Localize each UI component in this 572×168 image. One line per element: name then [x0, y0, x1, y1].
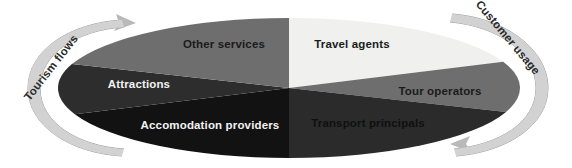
tourism-distribution-diagram: Travel agentsTour operatorsTransport pri… [0, 0, 572, 168]
segment-label-tour-operators: Tour operators [398, 85, 481, 97]
segment-label-accomodation-providers: Accomodation providers [141, 119, 280, 131]
diagram-canvas: Travel agentsTour operatorsTransport pri… [0, 0, 572, 168]
segment-label-travel-agents: Travel agents [314, 38, 389, 50]
segment-label-attractions: Attractions [108, 78, 170, 90]
segment-label-transport-principals: Transport principals [311, 117, 425, 129]
segment-label-other-services: Other services [183, 38, 265, 50]
